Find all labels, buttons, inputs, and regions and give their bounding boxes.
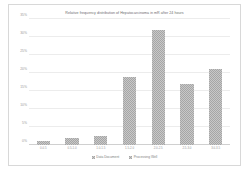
x-axis-tick-label: 1.0-1.5	[96, 147, 105, 150]
chart-container: Relative frequency distribution of Hepat…	[8, 4, 241, 166]
bar-column[interactable]: 2.0-2.5	[152, 19, 165, 145]
x-axis-tick-label: 3.0-3.5	[211, 147, 220, 150]
y-axis-tick-label: 5%	[22, 122, 27, 125]
bar-series: 0-0.50.5-1.01.0-1.51.5-2.02.0-2.52.5-3.0…	[29, 19, 230, 145]
bar-column[interactable]: 0.5-1.0	[65, 19, 78, 145]
x-axis-tick-label: 2.5-3.0	[182, 147, 191, 150]
bar[interactable]	[94, 136, 107, 145]
bar[interactable]	[37, 141, 50, 145]
y-axis-tick-label: 25%	[20, 50, 27, 53]
legend-swatch-icon	[92, 156, 95, 159]
bar[interactable]	[65, 138, 78, 145]
plot-area: 0%5%10%15%20%25%30%35% 0-0.50.5-1.01.0-1…	[29, 19, 230, 145]
bar[interactable]	[152, 30, 165, 145]
legend-label: Processing Well	[134, 156, 158, 159]
bar[interactable]	[123, 77, 136, 145]
y-axis-tick-label: 10%	[20, 104, 27, 107]
bar[interactable]	[180, 84, 193, 145]
y-axis-tick-label: 30%	[20, 32, 27, 35]
bar-column[interactable]: 3.0-3.5	[209, 19, 222, 145]
legend-swatch-icon	[129, 156, 132, 159]
bar-column[interactable]: 1.0-1.5	[94, 19, 107, 145]
y-axis-tick-label: 20%	[20, 68, 27, 71]
x-axis-tick-label: 0-0.5	[40, 147, 47, 150]
chart-legend: Data DocumentProcessing Well	[9, 156, 240, 159]
legend-entry[interactable]: Data Document	[92, 156, 119, 159]
legend-label: Data Document	[96, 156, 119, 159]
bar[interactable]	[209, 69, 222, 145]
bar-column[interactable]: 1.5-2.0	[123, 19, 136, 145]
chart-title: Relative frequency distribution of Hepat…	[9, 11, 240, 15]
x-axis-tick-label: 1.5-2.0	[125, 147, 134, 150]
bar-column[interactable]: 2.5-3.0	[180, 19, 193, 145]
y-axis-tick-label: 15%	[20, 86, 27, 89]
x-axis-tick-label: 0.5-1.0	[68, 147, 77, 150]
y-axis-tick-label: 35%	[20, 14, 27, 17]
x-axis-tick-label: 2.0-2.5	[154, 147, 163, 150]
bar-column[interactable]: 0-0.5	[37, 19, 50, 145]
y-axis-tick-label: 0%	[22, 140, 27, 143]
legend-entry[interactable]: Processing Well	[129, 156, 157, 159]
